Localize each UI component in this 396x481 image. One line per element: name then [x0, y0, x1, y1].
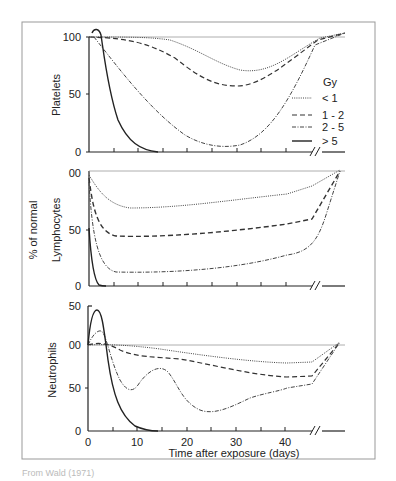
legend-label-2-5: 2 - 5	[322, 121, 344, 133]
x-tick-10: 10	[131, 436, 143, 448]
platelets-tick-100: 100	[63, 31, 81, 43]
platelets-series-1-2	[89, 33, 345, 86]
neutrophils-series-gt5	[88, 310, 158, 431]
lymphocytes-series-lt1	[89, 170, 340, 208]
platelets-tick-0: 0	[75, 146, 81, 158]
neutrophils-tick-100: 00	[69, 339, 81, 351]
legend-label-lt1: < 1	[322, 92, 338, 104]
legend: Gy < 1 1 - 2 2 - 5 > 5	[292, 76, 344, 147]
lymphocytes-series-2-5	[89, 171, 340, 272]
neutrophils-tick-150: 50	[69, 300, 81, 312]
neutrophils-label: Neutrophils	[46, 342, 58, 398]
legend-title: Gy	[323, 76, 338, 88]
platelets-label: Platelets	[50, 73, 62, 116]
lymphocytes-series-1-2	[89, 171, 340, 236]
platelets-series-lt1	[89, 33, 345, 71]
legend-label-1-2: 1 - 2	[322, 109, 344, 121]
lymphocytes-tick-50: 50	[69, 224, 81, 236]
neutrophils-series-2-5	[88, 331, 340, 412]
lymphocytes-label: Lymphocytes	[50, 197, 62, 262]
neutrophils-panel: 50 00 50 0 Neutrophils 0 10 20 30 40 Tim…	[46, 300, 345, 459]
neutrophils-series-1-2	[88, 342, 340, 377]
x-tick-0: 0	[85, 436, 91, 448]
shared-y-axis-label: % of normal	[27, 201, 39, 260]
x-axis-title: Time after exposure (days)	[168, 447, 299, 459]
lymphocytes-series-gt5	[89, 228, 106, 286]
neutrophils-tick-0: 0	[75, 425, 81, 437]
platelets-panel: 100 50 0 Platelets	[50, 29, 345, 158]
legend-label-gt5: > 5	[322, 135, 338, 147]
lymphocytes-tick-100: 00	[69, 167, 81, 179]
platelets-series-2-5	[94, 33, 345, 146]
platelets-tick-50: 50	[69, 88, 81, 100]
figure: 100 50 0 Platelets Gy < 1 1 - 2 2 - 5 > …	[0, 0, 396, 481]
lymphocytes-tick-0: 0	[75, 280, 81, 292]
neutrophils-tick-50: 50	[69, 382, 81, 394]
source-caption: From Wald (1971)	[22, 468, 94, 478]
lymphocytes-panel: 00 50 0 % of normal Lymphocytes	[27, 167, 345, 292]
